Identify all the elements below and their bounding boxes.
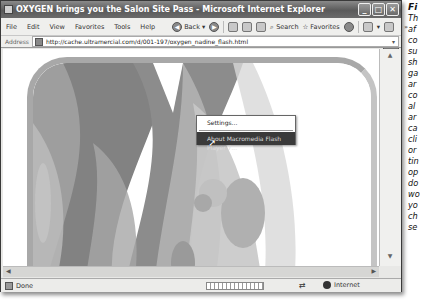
caption-line: wo xyxy=(408,189,431,200)
menu-tools[interactable]: Tools xyxy=(109,23,135,31)
minimize-button[interactable]: _ xyxy=(358,3,371,16)
caption-line: tin xyxy=(408,156,431,167)
horizontal-scrollbar[interactable]: ◀ ▶ xyxy=(3,266,379,277)
caption-line: Th xyxy=(408,13,431,24)
browser-window: OXYGEN brings you the Salon Site Pass - … xyxy=(0,0,402,292)
caption-line: or xyxy=(408,145,431,156)
caption-line: ar xyxy=(408,79,431,90)
refresh-button[interactable] xyxy=(242,22,252,32)
caption-line: yo xyxy=(408,200,431,211)
caption-heading: Fi xyxy=(408,2,431,13)
search-icon: ⌕ xyxy=(270,23,274,31)
menu-file[interactable]: File xyxy=(1,23,22,31)
caption-line: af xyxy=(408,24,431,35)
caption-line: cli xyxy=(408,134,431,145)
address-url: http://cache.ultramercial.com/d/001-197/… xyxy=(46,38,248,45)
back-arrow-icon: ◀ xyxy=(172,22,182,32)
back-label: Back xyxy=(184,23,200,31)
caption-line: ga xyxy=(408,68,431,79)
scroll-up-arrow-icon[interactable]: ▲ xyxy=(383,51,397,63)
address-bar: Address http://cache.ultramercial.com/d/… xyxy=(1,36,401,48)
caption-line: ar xyxy=(408,112,431,123)
caption-line: se xyxy=(408,222,431,233)
caption-line: do xyxy=(408,178,431,189)
page-favicon-icon xyxy=(35,38,43,46)
close-button[interactable]: ✕ xyxy=(386,3,399,16)
search-button[interactable]: ⌕ Search xyxy=(270,23,298,31)
address-label: Address xyxy=(1,38,32,45)
caption-line: ca xyxy=(408,123,431,134)
status-text: Done xyxy=(16,282,33,290)
mouse-cursor-icon: ➚ xyxy=(208,137,216,148)
network-activity-icon: ⇄ xyxy=(299,281,309,290)
standard-toolbar: ◀ Back ▾ ▶ ⌕ Search ☆ Favorites ▾ » xyxy=(172,21,408,33)
title-bar[interactable]: OXYGEN brings you the Salon Site Pass - … xyxy=(1,1,401,18)
mail-dropdown-icon[interactable]: ▾ xyxy=(377,23,380,31)
address-input[interactable]: http://cache.ultramercial.com/d/001-197/… xyxy=(32,36,399,47)
globe-icon xyxy=(323,281,331,289)
figure-caption: Fi Th af co su sh ga ar co al ar ca cli … xyxy=(408,2,431,233)
back-dropdown-icon[interactable]: ▾ xyxy=(202,23,205,31)
menu-edit[interactable]: Edit xyxy=(22,23,45,31)
history-button[interactable] xyxy=(344,22,354,32)
menu-separator xyxy=(199,130,293,131)
maximize-button[interactable]: □ xyxy=(372,3,385,16)
scroll-down-arrow-icon[interactable]: ▼ xyxy=(383,252,397,264)
caption-line: su xyxy=(408,46,431,57)
scroll-right-arrow-icon[interactable]: ▶ xyxy=(371,267,376,274)
menu-item-settings[interactable]: Settings... xyxy=(197,116,295,129)
caption-line: al xyxy=(408,101,431,112)
vertical-scrollbar[interactable]: ▲ ▼ xyxy=(379,49,401,266)
security-zone: Internet xyxy=(323,281,360,289)
caption-line: ch xyxy=(408,211,431,222)
status-bar: Done ⇄ Internet xyxy=(1,278,401,292)
print-button[interactable] xyxy=(384,22,394,32)
search-label: Search xyxy=(276,23,298,31)
caption-line: sh xyxy=(408,57,431,68)
window-title: OXYGEN brings you the Salon Site Pass - … xyxy=(16,5,325,14)
toolbar-separator xyxy=(358,21,359,33)
stop-button[interactable] xyxy=(228,22,238,32)
ie-app-icon xyxy=(4,5,13,14)
page-content: Settings... About Macromedia Flash Playe… xyxy=(3,49,379,266)
menu-bar: File Edit View Favorites Tools Help ◀ Ba… xyxy=(1,18,401,36)
menu-view[interactable]: View xyxy=(44,23,69,31)
caption-line: op xyxy=(408,167,431,178)
star-icon: ☆ xyxy=(303,23,309,31)
page-done-icon xyxy=(5,282,13,290)
forward-button[interactable]: ▶ xyxy=(209,22,219,32)
menu-help[interactable]: Help xyxy=(135,23,160,31)
menu-favorites[interactable]: Favorites xyxy=(70,23,109,31)
flash-graphic xyxy=(33,63,373,266)
address-dropdown-icon[interactable]: ▾ xyxy=(389,38,398,45)
zone-label: Internet xyxy=(334,281,360,289)
progress-bar xyxy=(206,282,264,290)
back-button[interactable]: ◀ Back ▾ xyxy=(172,22,205,32)
favorites-button[interactable]: ☆ Favorites xyxy=(303,23,340,31)
mail-button[interactable] xyxy=(363,22,373,32)
favorites-label: Favorites xyxy=(310,23,339,31)
flash-ad[interactable] xyxy=(27,57,377,266)
caption-line: co xyxy=(408,90,431,101)
home-button[interactable] xyxy=(256,22,266,32)
scroll-left-arrow-icon[interactable]: ◀ xyxy=(6,267,11,274)
toolbar-separator xyxy=(223,21,224,33)
caption-line: co xyxy=(408,35,431,46)
